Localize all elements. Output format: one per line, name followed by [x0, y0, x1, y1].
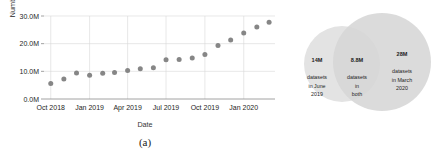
scatter-plot-svg: 0.0M10.0M20.0M30.0MOct 2018Jan 2019Apr 2…: [0, 0, 290, 120]
y-tick-label: 10.0M: [20, 68, 40, 75]
x-tick-label: Jul 2019: [153, 104, 180, 111]
data-point: [177, 57, 182, 62]
venn-text-intersection: datasets in both: [347, 74, 367, 97]
y-tick-label: 30.0M: [20, 13, 40, 20]
venn-label-right: 28M datasets in March 2020: [378, 41, 426, 93]
x-tick-label: Oct 2019: [191, 104, 220, 111]
y-tick-label: 0.0M: [23, 96, 39, 103]
data-point: [202, 52, 207, 57]
data-point: [100, 71, 105, 76]
x-axis-label: Date: [0, 120, 290, 129]
x-tick-label: Jan 2020: [229, 104, 258, 111]
data-point: [241, 30, 246, 35]
venn-count-intersection: 8.8M: [337, 56, 377, 65]
venn-count-left: 14M: [296, 56, 338, 65]
data-point: [254, 25, 259, 30]
data-point: [87, 73, 92, 78]
data-point: [151, 65, 156, 70]
x-tick-label: Oct 2018: [37, 104, 66, 111]
venn-label-left: 14M datasets in June 2019: [296, 47, 338, 99]
data-point: [48, 81, 53, 86]
data-point: [125, 68, 130, 73]
data-point: [61, 77, 66, 82]
data-point: [74, 70, 79, 75]
data-point: [267, 20, 272, 25]
venn-label-intersection: 8.8M datasets in both: [337, 47, 377, 99]
figure-container: Number of datasets 0.0M10.0M20.0M30.0MOc…: [0, 0, 445, 163]
y-tick-label: 20.0M: [20, 40, 40, 47]
x-tick-label: Jan 2019: [75, 104, 104, 111]
panel-a-caption: (a): [0, 136, 290, 148]
panel-b-venn: 14M datasets in June 2019 8.8M datasets …: [290, 0, 445, 163]
data-point: [138, 66, 143, 71]
data-point: [190, 56, 195, 61]
venn-text-right: datasets in March 2020: [392, 68, 412, 91]
venn-count-right: 28M: [378, 50, 426, 59]
panel-a-scatter: Number of datasets 0.0M10.0M20.0M30.0MOc…: [0, 0, 290, 163]
data-point: [228, 38, 233, 43]
data-point: [112, 70, 117, 75]
venn-text-left: datasets in June 2019: [307, 74, 327, 97]
data-point: [215, 43, 220, 48]
data-point: [164, 57, 169, 62]
x-tick-label: Apr 2019: [113, 104, 142, 112]
